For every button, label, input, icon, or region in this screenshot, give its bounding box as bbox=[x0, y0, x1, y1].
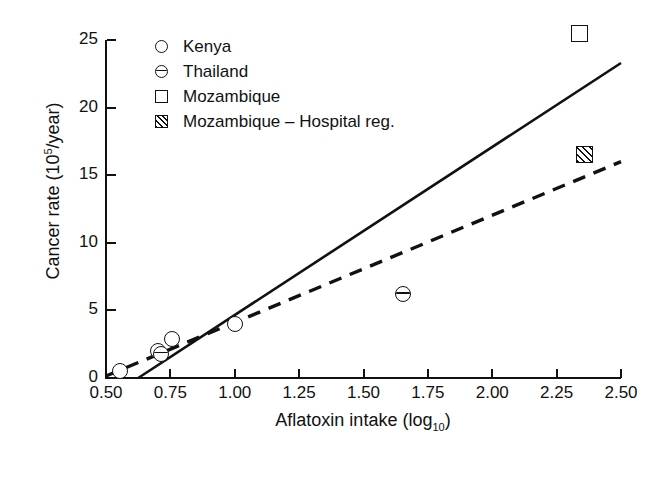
chart-figure: 0510152025 0.500.751.001.251.501.752.002… bbox=[0, 0, 671, 479]
open-square-icon bbox=[152, 86, 174, 108]
legend-item-mozambique-hospital-reg: Mozambique – Hospital reg. bbox=[152, 109, 395, 134]
legend-item-thailand: Thailand bbox=[152, 59, 395, 84]
legend-item-mozambique: Mozambique bbox=[152, 84, 395, 109]
data-point-thailand bbox=[153, 346, 169, 362]
open-circle-glyph bbox=[155, 40, 168, 53]
circle-with-horizontal-bar-glyph bbox=[155, 65, 168, 78]
open-square-glyph bbox=[155, 90, 168, 103]
data-point-kenya bbox=[164, 331, 180, 347]
legend-item-label: Mozambique – Hospital reg. bbox=[183, 109, 395, 134]
open-circle-icon bbox=[152, 36, 174, 58]
hatched-square-glyph bbox=[155, 115, 168, 128]
legend-item-kenya: Kenya bbox=[152, 34, 395, 59]
circle-with-horizontal-bar-icon bbox=[152, 61, 174, 83]
hatched-square-icon bbox=[152, 111, 174, 133]
data-point-mozambique bbox=[571, 25, 588, 42]
data-point-kenya bbox=[227, 316, 243, 332]
data-point-mozambique-hospital-reg bbox=[576, 146, 593, 163]
legend-item-label: Thailand bbox=[183, 59, 248, 84]
legend-item-label: Mozambique bbox=[183, 84, 280, 109]
dashed-regression-line bbox=[106, 162, 621, 376]
legend-item-label: Kenya bbox=[183, 34, 231, 59]
chart-legend: KenyaThailandMozambiqueMozambique – Hosp… bbox=[152, 34, 395, 134]
